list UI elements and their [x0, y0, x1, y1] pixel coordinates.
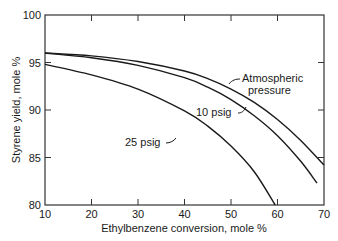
y-tick-label: 85 [29, 152, 41, 164]
y-axis-label: Styrene yield, mole % [10, 57, 22, 164]
label-atmospheric: Atmospheric [242, 72, 304, 84]
label-pressure: pressure [248, 84, 291, 96]
line-chart: 1020304050607080859095100 Atmospheric pr… [0, 0, 338, 241]
y-tick-label: 95 [29, 57, 41, 69]
series-line-2 [45, 64, 275, 205]
series-line-0 [45, 53, 324, 165]
x-tick-label: 70 [318, 208, 330, 220]
leader-atmospheric [229, 79, 240, 84]
x-axis-label: Ethylbenzene conversion, mole % [101, 222, 267, 234]
y-tick-label: 100 [23, 9, 41, 21]
y-tick-label: 90 [29, 104, 41, 116]
x-tick-label: 50 [225, 208, 237, 220]
leader-25psig [166, 138, 176, 143]
label-10psig: 10 psig [196, 106, 231, 118]
plot-border [45, 15, 324, 205]
plot-frame [45, 15, 324, 205]
x-tick-label: 20 [85, 208, 97, 220]
y-tick-label: 80 [29, 199, 41, 211]
chart-container: 1020304050607080859095100 Atmospheric pr… [0, 0, 338, 241]
label-25psig: 25 psig [125, 136, 160, 148]
annotations: Atmospheric pressure 10 psig 25 psig [125, 72, 304, 148]
x-tick-label: 40 [178, 208, 190, 220]
axis-ticks: 1020304050607080859095100 [23, 9, 330, 220]
x-tick-label: 60 [271, 208, 283, 220]
x-tick-label: 30 [132, 208, 144, 220]
